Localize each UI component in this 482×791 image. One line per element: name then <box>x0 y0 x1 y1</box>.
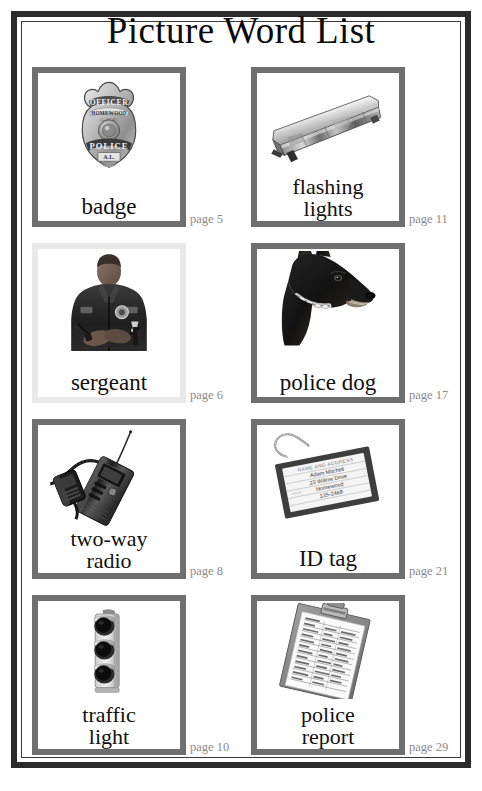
svg-text:OFFICER: OFFICER <box>90 98 128 107</box>
page-reference: page 17 <box>409 388 448 403</box>
word-card: two-way radio <box>32 419 186 579</box>
word-card: sergeant <box>32 243 186 403</box>
word-entry-police-dog[interactable]: police dog page 17 <box>241 238 460 414</box>
picture-word-list-page: Picture Word List <box>0 0 482 791</box>
page-reference: page 10 <box>190 740 229 755</box>
page-reference: page 6 <box>190 388 223 403</box>
word-label-line2: report <box>302 724 355 749</box>
two-way-radio-icon <box>38 427 180 527</box>
word-label: ID tag <box>257 548 399 571</box>
page-reference: page 8 <box>190 564 223 579</box>
word-entry-id-tag[interactable]: NAME AND ADDRESS Adam Mitchell 23 Willow… <box>241 414 460 590</box>
word-grid: OFFICER HOMEWOOD ALABAMA POLICE A.L. <box>22 62 460 762</box>
police-sergeant-photo-icon <box>38 251 180 355</box>
word-card: police report <box>251 595 405 755</box>
word-entry-badge[interactable]: OFFICER HOMEWOOD ALABAMA POLICE A.L. <box>22 62 241 238</box>
word-label: two-way radio <box>38 528 180 572</box>
word-entry-traffic-light[interactable]: traffic light page 10 <box>22 590 241 766</box>
word-entry-flashing-lights[interactable]: flashing lights page 11 <box>241 62 460 238</box>
word-label: badge <box>38 196 180 219</box>
page-reference: page 11 <box>409 212 448 227</box>
page-reference: page 5 <box>190 212 223 227</box>
traffic-light-icon <box>38 603 180 695</box>
svg-text:A.L.: A.L. <box>103 154 115 160</box>
page-reference: page 21 <box>409 564 448 579</box>
word-entry-two-way-radio[interactable]: two-way radio page 8 <box>22 414 241 590</box>
word-label: sergeant <box>38 372 180 395</box>
svg-text:HOMEWOOD: HOMEWOOD <box>91 110 126 116</box>
word-label-line2: lights <box>304 196 353 221</box>
police-badge-icon: OFFICER HOMEWOOD ALABAMA POLICE A.L. <box>38 75 180 171</box>
police-dog-icon <box>257 251 399 355</box>
word-label: flashing lights <box>257 176 399 220</box>
word-label: police report <box>257 704 399 748</box>
police-lightbar-icon <box>257 75 399 171</box>
page-title: Picture Word List <box>0 9 482 52</box>
svg-text:POLICE: POLICE <box>89 141 128 151</box>
word-card: OFFICER HOMEWOOD ALABAMA POLICE A.L. <box>32 67 186 227</box>
word-label: police dog <box>257 372 399 395</box>
word-label: traffic light <box>38 704 180 748</box>
id-tag-icon: NAME AND ADDRESS Adam Mitchell 23 Willow… <box>257 427 399 527</box>
clipboard-report-icon <box>257 603 399 699</box>
word-entry-police-report[interactable]: police report page 29 <box>241 590 460 766</box>
word-label-line2: light <box>89 724 129 749</box>
word-card: traffic light <box>32 595 186 755</box>
word-entry-sergeant[interactable]: sergeant page 6 <box>22 238 241 414</box>
page-reference: page 29 <box>409 740 448 755</box>
word-card: flashing lights <box>251 67 405 227</box>
word-card: police dog <box>251 243 405 403</box>
word-label-line2: radio <box>86 548 131 573</box>
word-card: NAME AND ADDRESS Adam Mitchell 23 Willow… <box>251 419 405 579</box>
